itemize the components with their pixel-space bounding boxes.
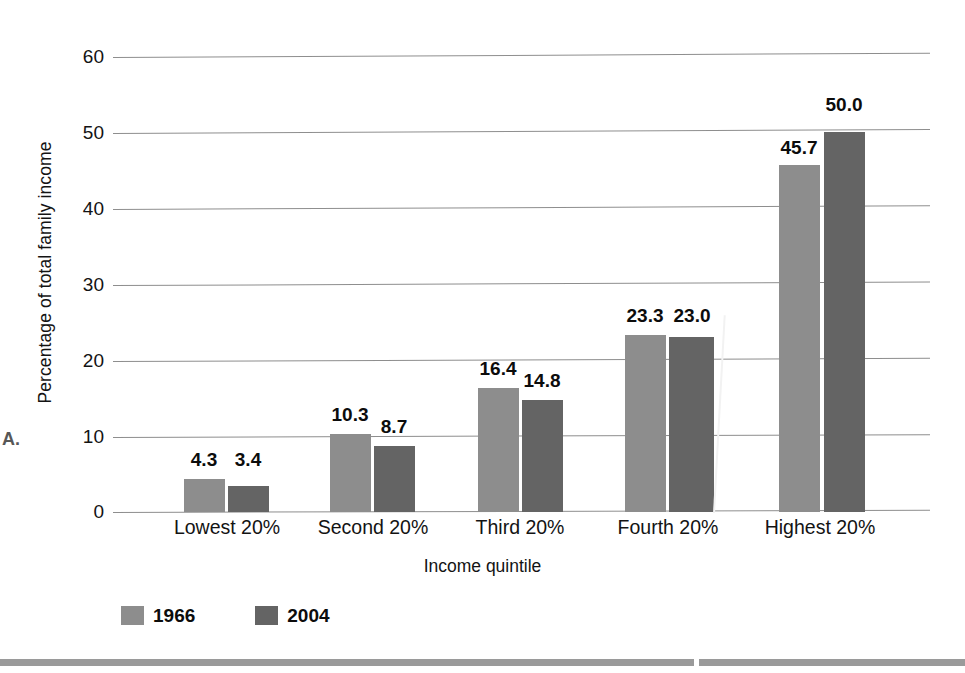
bar-label-2004-highest-20: 50.0 (814, 95, 874, 114)
bar-2004-third-20[interactable] (522, 400, 563, 512)
y-tick-0: 0 (58, 502, 104, 521)
legend-swatch-1966-icon (121, 606, 144, 625)
bar-2004-second-20[interactable] (374, 446, 415, 512)
bar-2004-highest-20[interactable] (824, 132, 865, 512)
chart-legend: 1966 2004 (121, 606, 330, 625)
bar-label-2004-fourth-20: 23.0 (662, 306, 722, 325)
y-tick-60: 60 (58, 47, 104, 66)
y-tick-50: 50 (58, 123, 104, 142)
bar-1966-fourth-20[interactable] (625, 335, 666, 512)
y-tick-10: 10 (58, 427, 104, 446)
x-tick-highest-20: Highest 20% (730, 518, 910, 538)
bar-label-2004-third-20: 14.8 (512, 371, 572, 390)
bar-label-2004-second-20: 8.7 (364, 417, 424, 436)
bar-2004-lowest-20[interactable] (228, 486, 269, 512)
y-axis-title: Percentage of total family income (35, 108, 56, 438)
scan-artifact-line (713, 315, 726, 513)
gridline-60 (113, 53, 930, 58)
bar-1966-third-20[interactable] (478, 388, 519, 512)
legend-label-1966: 1966 (153, 606, 195, 625)
legend-item-1966[interactable]: 1966 (121, 606, 195, 625)
footer-rule-left (0, 659, 694, 666)
bar-1966-highest-20[interactable] (779, 165, 820, 512)
legend-label-2004: 2004 (287, 606, 329, 625)
bar-1966-lowest-20[interactable] (184, 479, 225, 512)
y-tick-30: 30 (58, 275, 104, 294)
bar-label-1966-highest-20: 45.7 (769, 138, 829, 157)
page-edge-artifact: A. (2, 430, 20, 448)
y-tick-20: 20 (58, 351, 104, 370)
footer-rule-right (699, 659, 965, 666)
gridline-50 (113, 129, 930, 134)
x-axis-title: Income quintile (0, 556, 965, 577)
bar-1966-second-20[interactable] (330, 434, 371, 512)
chart-page: 60 50 40 30 20 10 0 Percentage of total … (0, 0, 965, 673)
bar-label-2004-lowest-20: 3.4 (218, 450, 278, 469)
legend-item-2004[interactable]: 2004 (255, 606, 329, 625)
legend-swatch-2004-icon (255, 606, 278, 625)
y-tick-40: 40 (58, 199, 104, 218)
bar-2004-fourth-20[interactable] (669, 337, 714, 512)
bar-chart: 60 50 40 30 20 10 0 Percentage of total … (0, 0, 965, 673)
